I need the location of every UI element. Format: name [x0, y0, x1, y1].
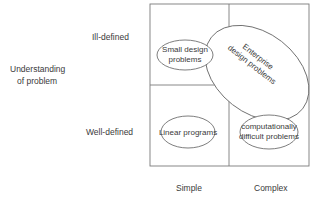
linear-programs-label: Linear programs: [159, 128, 217, 137]
computational-line2: difficult problems: [239, 132, 299, 141]
quadrant-diagram: Small design problems Enterprise design …: [0, 0, 310, 207]
small-design-line2: problems: [169, 55, 202, 64]
computational-line1: computationally: [241, 122, 297, 131]
small-design-line1: Small design: [162, 45, 208, 54]
